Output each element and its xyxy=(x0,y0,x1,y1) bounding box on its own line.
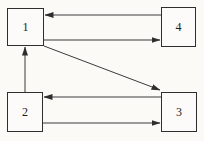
node-label-2: 2 xyxy=(22,106,28,118)
diagram-stage: 1423 xyxy=(0,0,204,141)
edge-1-to-3 xyxy=(44,46,160,90)
node-box-2: 2 xyxy=(7,92,43,132)
node-label-4: 4 xyxy=(176,21,182,33)
node-box-4: 4 xyxy=(161,7,196,47)
node-box-3: 3 xyxy=(161,92,197,132)
edge-lines xyxy=(25,15,161,123)
node-box-1: 1 xyxy=(7,8,44,46)
node-label-1: 1 xyxy=(23,21,29,33)
node-label-3: 3 xyxy=(176,106,182,118)
